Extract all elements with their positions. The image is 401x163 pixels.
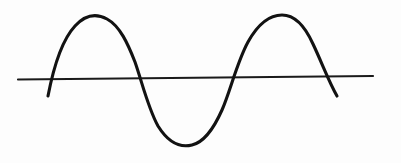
sine-wave-figure: Sine wave crossing a horizontal axis Han… xyxy=(0,0,401,163)
sine-wave-curve xyxy=(48,15,337,146)
sine-wave-canvas xyxy=(0,0,401,163)
horizontal-axis-line xyxy=(18,76,373,80)
